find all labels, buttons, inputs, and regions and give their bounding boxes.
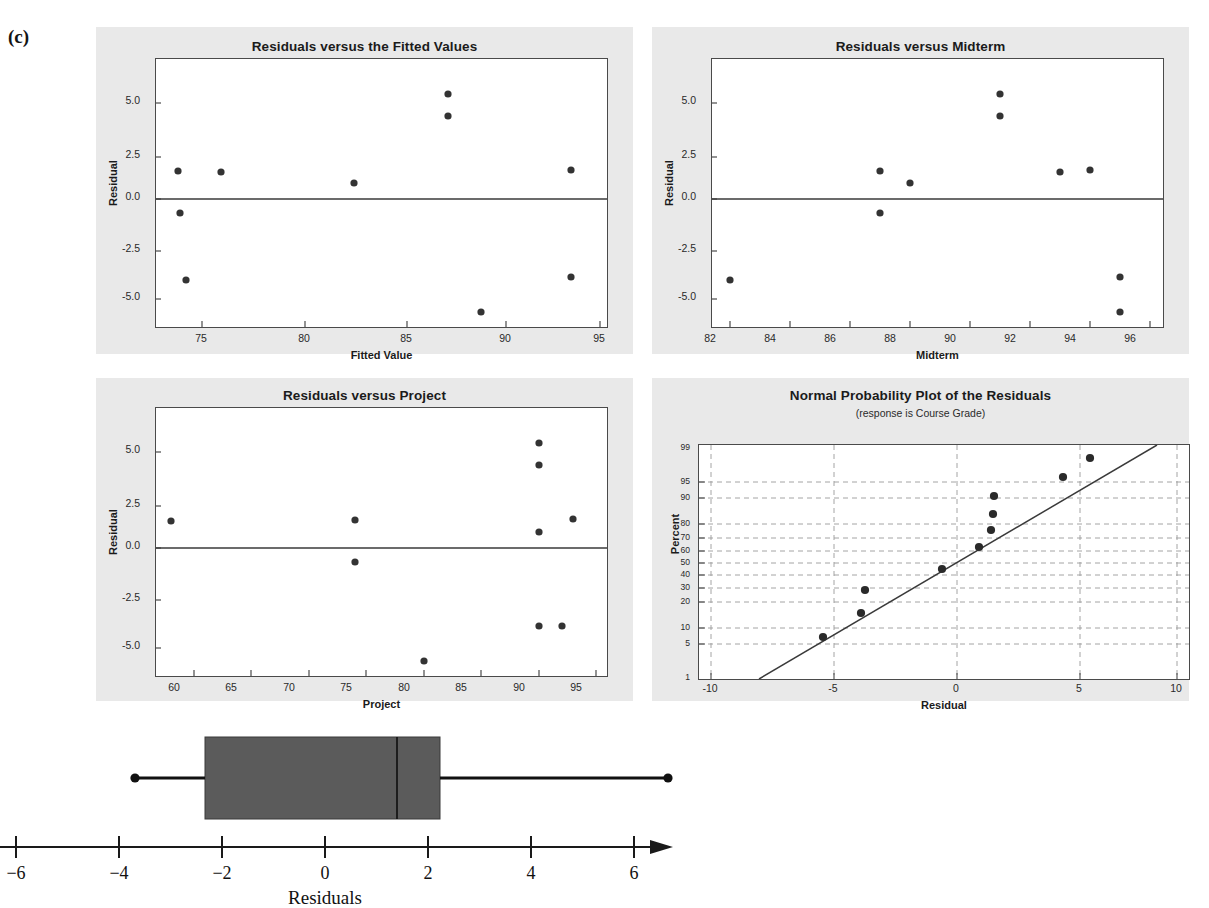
plot-area [711,58,1164,328]
x-tick-label: 75 [326,681,366,693]
y-tick-label: -2.5 [652,242,696,254]
x-tick-label: 95 [556,681,596,693]
x-tick-label: 82 [690,332,730,344]
y-tick-label: 80 [662,518,690,528]
x-tick-label: 70 [269,681,309,693]
panel-title: Residuals versus the Fitted Values [96,39,633,54]
residuals-boxplot: −6 −4 −2 0 2 4 6 Residuals [0,715,760,899]
scatter-svg [712,59,1163,327]
boxplot-tick-label: 2 [408,863,448,884]
y-tick-label: 20 [662,596,690,606]
y-tick-label: 30 [662,582,690,592]
panel-title: Residuals versus Project [96,388,633,403]
y-tick-label: -2.5 [96,242,140,254]
x-tick-label: 90 [485,332,525,344]
y-tick-label: 5.0 [652,94,696,106]
box-iqr [205,737,440,819]
x-tick-label: 85 [441,681,481,693]
x-tick-label: -10 [690,682,730,694]
panel-normal-probability-plot: Normal Probability Plot of the Residuals… [652,378,1189,701]
y-tick-label: 99 [662,442,690,452]
y-tick-label: 2.5 [652,148,696,160]
panel-title: Normal Probability Plot of the Residuals [652,388,1189,403]
scatter-svg [156,408,607,676]
x-tick-label: 94 [1050,332,1090,344]
data-points [167,439,576,664]
x-tick-label: 88 [870,332,910,344]
x-tick-label: 60 [154,681,194,693]
x-tick-label: 85 [386,332,426,344]
x-tick-label: 0 [936,682,976,694]
boxplot-tick-label: −4 [99,863,139,884]
y-tick-label: 2.5 [96,148,140,160]
y-tick-label: 0.0 [96,539,140,551]
x-tick-label: -5 [813,682,853,694]
y-tick-label: -5.0 [96,290,140,302]
x-tick-label: 92 [990,332,1030,344]
panel-residuals-vs-fitted: Residuals versus the Fitted Values (resp… [96,27,633,354]
x-tick-label: 80 [284,332,324,344]
x-axis-label: Project [155,698,608,710]
boxplot-axis-label: Residuals [205,887,445,908]
y-tick-label: 2.5 [96,497,140,509]
x-tick-label: 65 [211,681,251,693]
x-tick-label: 75 [181,332,221,344]
y-tick-label: 70 [662,532,690,542]
x-tick-label: 10 [1156,682,1196,694]
y-tick-label: 5.0 [96,443,140,455]
x-tick-label: 86 [810,332,850,344]
figure-label: (c) [8,26,29,48]
y-tick-label: 0.0 [96,190,140,202]
data-points [726,90,1123,315]
horizontal-gridlines [699,482,1189,644]
axis-arrowhead [650,840,673,854]
plot-area [155,58,608,328]
panel-residuals-vs-project: Residuals versus Project (response is Co… [96,378,633,701]
y-tick-label: 5 [662,638,690,648]
x-tick-label: 90 [499,681,539,693]
boxplot-svg [0,715,760,865]
boxplot-tick-label: 6 [614,863,654,884]
y-tick-label: -5.0 [652,290,696,302]
y-tick-label: 50 [662,557,690,567]
y-tick-label: 95 [662,476,690,486]
plot-area [155,407,608,677]
y-tick-label: -5.0 [96,639,140,651]
y-tick-label: 90 [662,492,690,502]
upper-whisker-cap [663,773,672,782]
panel-subtitle: (response is Course Grade) [652,407,1189,419]
y-tick-label: 60 [662,545,690,555]
normal-plot-svg [699,445,1189,679]
lower-whisker-cap [130,773,139,782]
x-axis-label: Fitted Value [155,349,608,361]
y-tick-label: 10 [662,622,690,632]
scatter-svg [156,59,607,327]
boxplot-tick-label: −2 [202,863,242,884]
x-tick-label: 95 [579,332,619,344]
data-points [174,90,574,315]
panel-residuals-vs-midterm: Residuals versus Midterm (response is Co… [652,27,1189,354]
x-tick-label: 96 [1110,332,1150,344]
x-tick-label: 84 [750,332,790,344]
panel-title: Residuals versus Midterm [652,39,1189,54]
y-tick-label: 0.0 [652,190,696,202]
y-tick-label: 40 [662,569,690,579]
boxplot-tick-label: 0 [305,863,345,884]
plot-area [698,444,1190,680]
x-tick-label: 5 [1059,682,1099,694]
boxplot-tick-label: 4 [511,863,551,884]
boxplot-tick-label: −6 [0,863,36,884]
y-tick-label: -2.5 [96,591,140,603]
y-tick-label: 5.0 [96,94,140,106]
x-tick-label: 90 [930,332,970,344]
x-axis-label: Midterm [711,349,1164,361]
x-tick-label: 80 [384,681,424,693]
y-tick-label: 1 [662,672,690,682]
x-axis-label: Residual [698,699,1190,711]
